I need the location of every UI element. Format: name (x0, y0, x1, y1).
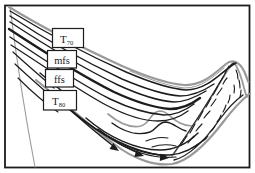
mound-dash (239, 80, 240, 88)
mound-dash (211, 99, 216, 106)
label-box-t80: T80 (44, 91, 77, 111)
mound-dash (223, 78, 227, 84)
label-text-ffs: ffs (54, 74, 65, 85)
mound-dash (236, 70, 238, 79)
cross-section-figure: T70 mfs ffs T80 (0, 0, 255, 173)
hook-line (146, 137, 168, 141)
mound-dash (196, 124, 202, 131)
hook-line (152, 145, 176, 147)
basal-parallel-line (174, 95, 243, 160)
mound-dash (210, 126, 215, 132)
mound-dash (217, 88, 222, 95)
label-box-ffs: ffs (46, 70, 74, 88)
mound-dash (188, 136, 194, 143)
mound-dash (213, 86, 218, 95)
label-box-mfs: mfs (48, 51, 77, 69)
mound-dash (234, 85, 235, 93)
figure-canvas: T70 mfs ffs T80 (0, 0, 255, 173)
label-subscript: 70 (67, 39, 74, 46)
mound-dash (204, 111, 210, 118)
mound-dash (228, 95, 230, 103)
label-subscript: 80 (59, 101, 66, 108)
label-text-mfs: mfs (54, 55, 70, 66)
label-box-t70: T70 (53, 29, 84, 48)
mound-dash (240, 90, 241, 97)
